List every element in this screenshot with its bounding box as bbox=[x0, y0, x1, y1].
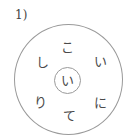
ring-char-lower-left: り bbox=[34, 96, 47, 109]
ring-char-upper-left: し bbox=[36, 56, 49, 69]
center-char: い bbox=[61, 74, 74, 87]
ring-char-lower-right: に bbox=[94, 96, 107, 109]
ring-char-bottom: て bbox=[63, 109, 76, 122]
ring-char-top: こ bbox=[61, 41, 74, 54]
ring-char-upper-right: い bbox=[94, 55, 107, 68]
question-number: 1) bbox=[15, 8, 27, 22]
